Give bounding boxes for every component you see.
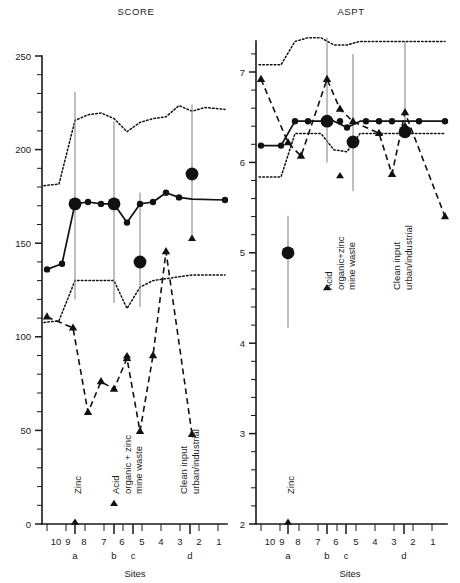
aspt-y-tick-label: 7: [240, 67, 245, 78]
aspt-y-tick-label: 4: [240, 338, 245, 349]
score-x-label: 6: [119, 536, 124, 547]
score-y-tick-label: 0: [26, 519, 31, 530]
score-x-label: 9: [65, 536, 70, 547]
score-x-label: 5: [139, 536, 144, 547]
score-y-tick-label: 50: [20, 425, 31, 436]
aspt-group-b: b: [324, 550, 329, 561]
aspt-annotation-organic-zinc: organic+zinc: [335, 236, 346, 290]
score-annotation-clean-input: Clean input: [178, 446, 189, 494]
aspt-annotation-clean-input: Clean input: [391, 242, 402, 290]
aspt-x-label: 9: [279, 536, 284, 547]
score-x-label: 2: [196, 536, 201, 547]
aspt-x-axis-title: Sites: [339, 568, 360, 579]
panel-score-title: SCORE: [118, 6, 155, 17]
score-group-a: a: [72, 550, 78, 561]
aspt-annotation-acid: Acid: [323, 272, 334, 290]
score-y-tick-label: 250: [15, 51, 31, 62]
score-highlight-a: [69, 198, 82, 211]
score-x-axis-title: Sites: [124, 568, 145, 579]
aspt-x-label: 8: [295, 536, 300, 547]
figure-background: [0, 0, 460, 583]
aspt-highlight-b: [321, 115, 334, 128]
score-group-b: b: [111, 550, 116, 561]
score-x-label: 10: [51, 536, 62, 547]
aspt-x-label: 7: [315, 536, 320, 547]
aspt-highlight-c: [347, 136, 360, 149]
aspt-annotation-mine-waste: mine waste: [346, 242, 357, 290]
aspt-x-label: 3: [391, 536, 396, 547]
aspt-y-tick-label: 5: [240, 247, 245, 258]
aspt-annotation-urban-industrial: urban/industrial: [403, 225, 414, 290]
score-highlight-b: [108, 198, 121, 211]
score-annotation-acid: Acid: [110, 476, 121, 494]
score-group-d: d: [187, 550, 192, 561]
score-annotation-zinc: Zinc: [72, 476, 83, 494]
aspt-y-tick-label: 3: [240, 428, 245, 439]
aspt-x-label: 6: [333, 536, 338, 547]
aspt-x-label: 5: [353, 536, 358, 547]
aspt-x-label: 2: [410, 536, 415, 547]
score-x-label: 8: [81, 536, 86, 547]
score-annotation-urban-industrial: urban/industrial: [190, 429, 201, 494]
score-highlight-d: [186, 168, 199, 181]
aspt-group-a: a: [285, 550, 291, 561]
aspt-annotation-zinc: Zinc: [285, 476, 296, 494]
aspt-x-label: 10: [265, 536, 276, 547]
figure-two-panel-score-aspt: SCORE 0 50 100 150 200 250: [0, 0, 460, 583]
aspt-x-label: 1: [430, 536, 435, 547]
score-y-tick-label: 150: [15, 238, 31, 249]
score-highlight-c: [134, 256, 147, 269]
score-group-c: c: [131, 550, 136, 561]
aspt-group-c: c: [344, 550, 349, 561]
score-annotation-mine-waste: mine waste: [133, 446, 144, 494]
panel-aspt-title: ASPT: [337, 6, 364, 17]
score-annotation-organic-zinc: organic + zinc: [122, 435, 133, 494]
score-y-tick-label: 100: [15, 331, 31, 342]
score-x-label: 4: [158, 536, 163, 547]
score-x-label: 1: [216, 536, 221, 547]
aspt-group-d: d: [401, 550, 406, 561]
score-y-tick-label: 200: [15, 144, 31, 155]
aspt-highlight-a: [282, 246, 295, 259]
aspt-highlight-d: [399, 125, 412, 138]
aspt-x-label: 4: [372, 536, 377, 547]
aspt-y-tick-label: 2: [240, 519, 245, 530]
aspt-y-tick-label: 6: [240, 157, 245, 168]
score-x-label: 3: [177, 536, 182, 547]
score-x-label: 7: [101, 536, 106, 547]
